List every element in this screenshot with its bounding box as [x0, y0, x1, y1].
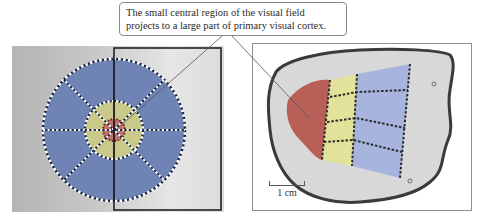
- scale-bar: 1 cm: [269, 181, 305, 198]
- callout-box: The small central region of the visual f…: [119, 2, 347, 36]
- scale-bar-line: [269, 181, 305, 186]
- cortex-map: [268, 49, 453, 202]
- callout-line-2: projects to a large part of primary visu…: [126, 19, 340, 32]
- scale-bar-label: 1 cm: [269, 187, 305, 198]
- callout-line-1: The small central region of the visual f…: [126, 6, 340, 19]
